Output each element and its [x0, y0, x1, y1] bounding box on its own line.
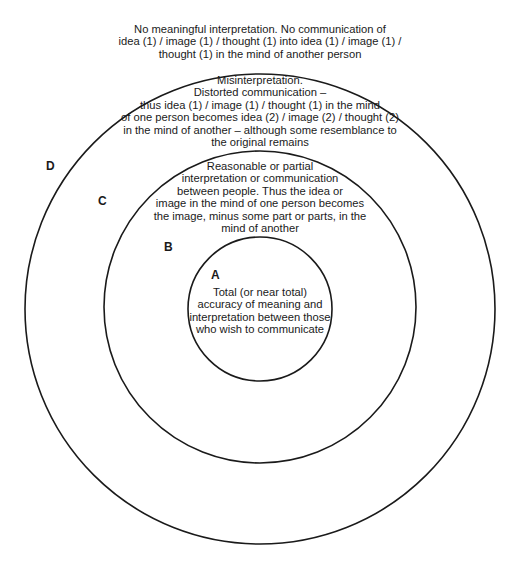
zone-c-line: the original remains	[0, 136, 520, 148]
zone-c-line: thus idea (1) / image (1) / thought (1) …	[0, 99, 520, 111]
zone-b-line: image in the mind of one person becomes	[0, 197, 520, 209]
zone-d-line: No meaningful interpretation. No communi…	[0, 23, 520, 35]
zone-c-line: Distorted communication –	[0, 86, 520, 98]
zone-b-line: Reasonable or partial	[0, 160, 520, 172]
zone-b-line: between people. Thus the idea or	[0, 185, 520, 197]
zone-label-c: C	[98, 194, 107, 208]
zone-b-line: mind of another	[0, 222, 520, 234]
zone-d-line: idea (1) / image (1) / thought (1) into …	[0, 35, 520, 47]
zone-a-description: Total (or near total) accuracy of meanin…	[0, 286, 520, 336]
zone-label-b: B	[164, 240, 173, 254]
zone-a-line: Total (or near total)	[0, 286, 520, 298]
zone-label-d: D	[46, 159, 55, 173]
zone-b-line: interpretation or communication	[0, 172, 520, 184]
zone-c-line: Misinterpretation.	[0, 74, 520, 86]
zone-d-description: No meaningful interpretation. No communi…	[0, 23, 520, 60]
zone-c-line: in the mind of another – although some r…	[0, 124, 520, 136]
zone-label-a: A	[211, 268, 220, 282]
zone-c-line: of one person becomes idea (2) / image (…	[0, 111, 520, 123]
zone-a-line: interpretation between those	[0, 311, 520, 323]
zone-a-line: accuracy of meaning and	[0, 298, 520, 310]
zone-b-line: the image, minus some part or parts, in …	[0, 210, 520, 222]
zone-a-line: who wish to communicate	[0, 323, 520, 335]
zone-c-description: Misinterpretation. Distorted communicati…	[0, 74, 520, 148]
zone-b-description: Reasonable or partial interpretation or …	[0, 160, 520, 234]
zone-d-line: thought (1) in the mind of another perso…	[0, 48, 520, 60]
